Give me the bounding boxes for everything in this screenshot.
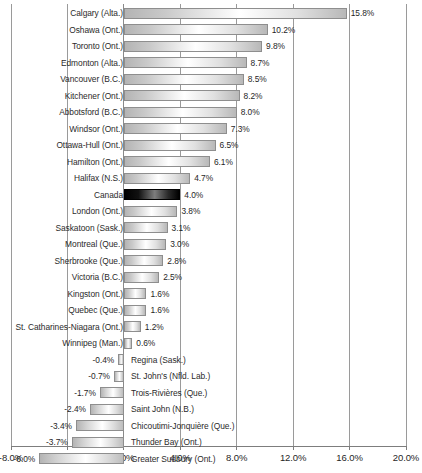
category-label: Quebec (Que.) <box>68 302 123 319</box>
bar-row: Chicoutimi-Jonquière (Que.)-3.4% <box>0 418 422 435</box>
value-label: 1.6% <box>150 286 169 303</box>
value-label: 1.6% <box>150 302 169 319</box>
bar-row: Ottawa-Hull (Ont.)6.5% <box>0 137 422 154</box>
value-label: 3.8% <box>181 203 200 220</box>
bar[interactable] <box>124 305 147 316</box>
bar[interactable] <box>124 123 227 134</box>
value-label: -3.4% <box>50 418 72 435</box>
value-label: -1.7% <box>74 385 96 402</box>
value-label: 2.5% <box>163 269 182 286</box>
bar-row: Quebec (Que.)1.6% <box>0 302 422 319</box>
category-label: Saskatoon (Sask.) <box>55 220 123 237</box>
bar[interactable] <box>124 239 166 250</box>
value-label: 3.1% <box>172 220 191 237</box>
bar-row: Canada4.0% <box>0 187 422 204</box>
bar-row: Regina (Sask.)-0.4% <box>0 352 422 369</box>
category-label: Montreal (Que.) <box>65 236 123 253</box>
value-label: 0.6% <box>136 335 155 352</box>
value-label: 4.7% <box>194 170 213 187</box>
category-label: Greater Sudbury (Ont.) <box>131 451 216 468</box>
value-label: 3.0% <box>170 236 189 253</box>
category-label: Victoria (B.C.) <box>72 269 123 286</box>
bar-row: Calgary (Alta.)15.8% <box>0 5 422 22</box>
bar-row: London (Ont.)3.8% <box>0 203 422 220</box>
bar[interactable] <box>124 222 168 233</box>
category-label: Canada <box>94 187 123 204</box>
value-label: 6.1% <box>214 154 233 171</box>
bar-row: Sherbrooke (Que.)2.8% <box>0 253 422 270</box>
value-label: 8.7% <box>251 55 270 72</box>
category-label: Calgary (Alta.) <box>70 5 123 22</box>
bar-row: Kingston (Ont.)1.6% <box>0 286 422 303</box>
bar-row: Edmonton (Alta.)8.7% <box>0 55 422 72</box>
bar[interactable] <box>124 189 180 200</box>
value-label: 8.0% <box>241 104 260 121</box>
category-label: Vancouver (B.C.) <box>60 71 123 88</box>
value-label: 4.0% <box>184 187 203 204</box>
bar-row: Oshawa (Ont.)10.2% <box>0 22 422 39</box>
value-label: 7.3% <box>231 121 250 138</box>
value-label: 2.8% <box>167 253 186 270</box>
bar-row: Montreal (Que.)3.0% <box>0 236 422 253</box>
bar-row: Abbotsford (B.C.)8.0% <box>0 104 422 121</box>
category-label: St. John's (Nfld. Lab.) <box>131 368 210 385</box>
category-label: St. Catharines-Niagara (Ont.) <box>16 319 123 336</box>
bar[interactable] <box>124 107 237 118</box>
bar[interactable] <box>124 338 132 349</box>
value-label: 9.8% <box>266 38 285 55</box>
bar[interactable] <box>90 404 124 415</box>
bar[interactable] <box>124 206 178 217</box>
bar[interactable] <box>72 437 124 448</box>
bar[interactable] <box>124 173 190 184</box>
category-label: Thunder Bay (Ont.) <box>131 434 202 451</box>
category-label: Kingston (Ont.) <box>67 286 123 303</box>
value-label: -0.7% <box>88 368 110 385</box>
bar-row: Greater Sudbury (Ont.)-6.0% <box>0 451 422 468</box>
bar[interactable] <box>124 140 216 151</box>
value-label: -0.4% <box>93 352 115 369</box>
bar-row: St. Catharines-Niagara (Ont.)1.2% <box>0 319 422 336</box>
bar-row: Saskatoon (Sask.)3.1% <box>0 220 422 237</box>
bar[interactable] <box>124 74 244 85</box>
category-label: Winnipeg (Man.) <box>62 335 123 352</box>
category-label: Ottawa-Hull (Ont.) <box>56 137 123 154</box>
bar[interactable] <box>124 255 164 266</box>
bar[interactable] <box>76 420 124 431</box>
bar-row: Windsor (Ont.)7.3% <box>0 121 422 138</box>
bar[interactable] <box>124 41 262 52</box>
category-label: Hamilton (Ont.) <box>67 154 123 171</box>
category-label: Oshawa (Ont.) <box>69 22 123 39</box>
bar[interactable] <box>124 272 159 283</box>
bar[interactable] <box>124 321 141 332</box>
bar[interactable] <box>124 90 240 101</box>
bar[interactable] <box>124 8 347 19</box>
value-label: 10.2% <box>272 22 296 39</box>
value-label: -2.4% <box>64 401 86 418</box>
category-label: Trois-Rivières (Que.) <box>131 385 207 402</box>
category-label: Abbotsford (B.C.) <box>59 104 123 121</box>
value-label: 8.2% <box>244 88 263 105</box>
bar-row: Thunder Bay (Ont.)-3.7% <box>0 434 422 451</box>
category-label: Kitchener (Ont.) <box>65 88 123 105</box>
value-label: 1.2% <box>145 319 164 336</box>
bar-row: Toronto (Ont.)9.8% <box>0 38 422 55</box>
value-label: 8.5% <box>248 71 267 88</box>
bar[interactable] <box>124 57 247 68</box>
value-label: 6.5% <box>220 137 239 154</box>
bar[interactable] <box>114 371 124 382</box>
bar[interactable] <box>39 453 124 464</box>
category-label: London (Ont.) <box>72 203 123 220</box>
bar[interactable] <box>124 24 268 35</box>
category-label: Sherbrooke (Que.) <box>54 253 123 270</box>
bar[interactable] <box>118 354 124 365</box>
category-label: Saint John (N.B.) <box>131 401 194 418</box>
bar-row: Victoria (B.C.)2.5% <box>0 269 422 286</box>
bar[interactable] <box>100 387 124 398</box>
value-label: 15.8% <box>351 5 375 22</box>
value-label: -6.0% <box>14 451 36 468</box>
bar-row: Halifax (N.S.)4.7% <box>0 170 422 187</box>
bar[interactable] <box>124 156 210 167</box>
bar[interactable] <box>124 288 147 299</box>
bar-row: Hamilton (Ont.)6.1% <box>0 154 422 171</box>
category-label: Regina (Sask.) <box>131 352 186 369</box>
